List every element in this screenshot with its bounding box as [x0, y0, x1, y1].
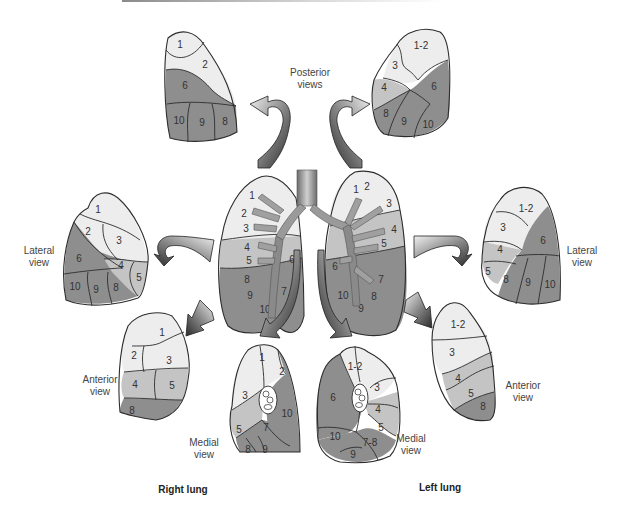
segment-label: 6: [76, 253, 82, 264]
caption-left-lateral-line2: view: [572, 257, 593, 268]
segment-label: 5: [468, 388, 474, 399]
top-rule: [122, 0, 442, 2]
segment-label: 1-2: [519, 203, 534, 214]
bronchus-label: 2: [241, 208, 247, 219]
arrow-to-right-posterior-icon: [250, 96, 290, 168]
segment-label: 9: [525, 277, 531, 288]
segment-label: 2: [85, 226, 91, 237]
segment-label: 4: [375, 404, 381, 415]
segment-label: 10: [422, 119, 434, 130]
hilum-icon: [352, 384, 368, 412]
left-posterior-view: 1-2 3 4 6 8 9 10: [372, 29, 450, 138]
central-left-lung: 1 2 3 4 5 6 7 8 9 10: [325, 171, 407, 335]
arrow-to-right-lateral-icon: [154, 236, 214, 266]
bronchus-label: 7: [378, 274, 384, 285]
segment-label: 6: [330, 392, 336, 403]
segment-label: 5: [485, 266, 491, 277]
arrow-to-left-anterior-icon: [404, 292, 432, 328]
segment-label: 3: [166, 355, 172, 366]
segment-label: 5: [136, 272, 142, 283]
caption-posterior-views-line1: Posterior: [290, 67, 331, 78]
bronchus-label: 7: [281, 286, 287, 297]
caption-right-lateral-line2: view: [29, 257, 50, 268]
segment-label: 3: [392, 60, 398, 71]
segment-label: 10: [329, 431, 341, 442]
arrow-to-left-posterior-icon: [330, 96, 370, 168]
caption-left-medial-line2: view: [401, 445, 422, 456]
segment-label: 10: [173, 115, 185, 126]
segment-label: 4: [118, 260, 124, 271]
segment-label: 3: [449, 347, 455, 358]
segment-label: 6: [540, 235, 546, 246]
segment-label: 4: [381, 82, 387, 93]
segment-label: 9: [350, 449, 356, 460]
segment-label: 6: [182, 80, 188, 91]
bronchus-label: 4: [391, 224, 397, 235]
caption-right-anterior-line1: Anterior: [82, 374, 118, 385]
segment-label: 1: [177, 39, 183, 50]
right-anterior-view: 1 2 3 4 5 8: [119, 313, 189, 420]
segment-label: 2: [131, 350, 137, 361]
segment-label: 1-2: [451, 319, 466, 330]
segment-label: 1: [159, 327, 165, 338]
right-medial-view: 1 2 3 10 5 7 8 9: [230, 345, 300, 455]
segment-label: 1: [259, 352, 265, 363]
segment-label: 3: [242, 390, 248, 401]
segment-label: 5: [169, 380, 175, 391]
right-posterior-view: 1 2 6 10 9 8: [164, 32, 237, 142]
segment-label: 8: [129, 405, 135, 416]
caption-right-lateral-line1: Lateral: [24, 245, 55, 256]
segment-label: 8: [222, 116, 228, 127]
segment-label: 8: [480, 401, 486, 412]
segment-label: 10: [69, 281, 81, 292]
segment-label: 1: [95, 204, 101, 215]
bronchus-label: 4: [244, 242, 250, 253]
segment-label: 7-8: [363, 437, 378, 448]
segment-label: 8: [245, 444, 251, 455]
segment-label: 3: [374, 382, 380, 393]
segment-label: 4: [497, 244, 503, 255]
bronchus-label: 6: [332, 261, 338, 272]
caption-right-medial-line2: view: [194, 449, 215, 460]
bronchus-label: 10: [337, 290, 349, 301]
segment-label: 9: [93, 284, 99, 295]
caption-right-anterior-line2: view: [90, 386, 111, 397]
left-lateral-view: 1-2 3 4 6 5 8 9 10: [482, 187, 561, 304]
bronchus-label: 1: [353, 184, 359, 195]
left-anterior-view: 1-2 3 4 5 8: [431, 303, 495, 421]
segment-label: 9: [199, 117, 205, 128]
segment-label: 10: [544, 279, 556, 290]
segment-label: 1-2: [414, 40, 429, 51]
arrow-to-left-lateral-icon: [414, 236, 472, 266]
segment-label: 5: [236, 424, 242, 435]
bronchus-label: 5: [246, 255, 252, 266]
segment-label: 9: [401, 116, 407, 127]
segment-label: 4: [132, 379, 138, 390]
segment-label: 1-2: [348, 361, 363, 372]
segment-label: 6: [431, 81, 437, 92]
segment-label: 2: [202, 59, 208, 70]
lung-segments-diagram: 1 2 6 10 9 8 1-2 3 4 6 8 9 10 Posterior …: [0, 0, 626, 514]
segment-label: 8: [113, 282, 119, 293]
arrow-to-right-anterior-icon: [186, 300, 214, 336]
segment-label: 7: [263, 422, 269, 433]
bronchus-label: 9: [247, 290, 253, 301]
bronchus-label: 3: [243, 223, 249, 234]
bronchus-label: 3: [386, 198, 392, 209]
caption-left-medial-line1: Medial: [396, 433, 425, 444]
segment-label: 2: [279, 366, 285, 377]
caption-posterior-views-line2: views: [297, 79, 322, 90]
bronchus-label: 1: [249, 190, 255, 201]
caption-right-medial-line1: Medial: [189, 437, 218, 448]
caption-left-lateral-line1: Lateral: [567, 245, 598, 256]
right-lateral-view: 1 2 3 6 4 5 10 9 8: [64, 193, 149, 306]
bronchus-label: 5: [381, 238, 387, 249]
left-medial-view: 1-2 3 6 4 5 10 7-8 9: [316, 346, 400, 463]
segment-label: 5: [378, 422, 384, 433]
segment-label: 4: [455, 373, 461, 384]
right-lung-title: Right lung: [158, 484, 207, 495]
segment-label: 8: [503, 274, 509, 285]
segment-label: 3: [116, 235, 122, 246]
segment-label: 10: [281, 408, 293, 419]
segment-label: 8: [383, 108, 389, 119]
